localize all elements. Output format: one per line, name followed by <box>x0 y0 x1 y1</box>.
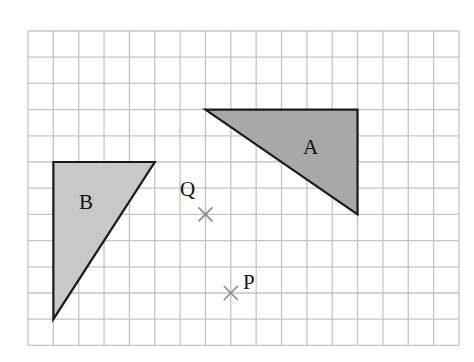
label-A: A <box>303 135 319 159</box>
label-B: B <box>79 190 93 214</box>
label-P: P <box>243 270 255 294</box>
points <box>198 207 237 300</box>
label-Q: Q <box>180 177 195 201</box>
grid-diagram: A B Q P <box>0 0 474 362</box>
